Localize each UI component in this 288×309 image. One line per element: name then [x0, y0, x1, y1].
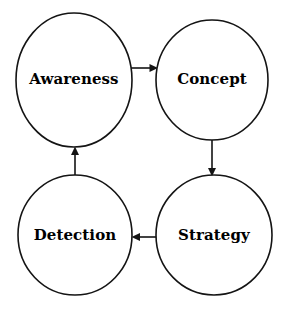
diagram-canvas: Awareness Concept Strategy Detection: [0, 0, 288, 309]
edge-detection-to-awareness: [71, 147, 79, 176]
node-strategy-label: Strategy: [178, 226, 251, 244]
node-awareness[interactable]: Awareness: [16, 13, 132, 147]
edge-strategy-to-detection: [132, 233, 159, 241]
cycle-diagram: Awareness Concept Strategy Detection: [0, 0, 288, 309]
node-detection-label: Detection: [34, 226, 117, 244]
node-concept-label: Concept: [177, 70, 247, 88]
edge-concept-to-strategy: [208, 140, 216, 177]
node-detection[interactable]: Detection: [18, 175, 132, 295]
node-concept[interactable]: Concept: [156, 20, 268, 140]
edge-awareness-to-concept: [131, 64, 159, 72]
node-awareness-label: Awareness: [28, 70, 118, 88]
node-strategy[interactable]: Strategy: [156, 175, 272, 295]
